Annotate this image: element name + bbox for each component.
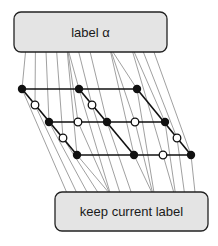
edge-line xyxy=(154,52,191,155)
edge-line xyxy=(111,52,134,155)
edge-line xyxy=(57,52,63,138)
filled-node xyxy=(161,118,169,126)
top-label-box: label α xyxy=(14,12,167,52)
edge-line xyxy=(63,138,98,192)
bottom-box-label: keep current label xyxy=(80,204,183,219)
open-node xyxy=(159,151,167,159)
filled-node xyxy=(133,85,141,93)
filled-node xyxy=(103,118,111,126)
filled-node xyxy=(45,118,53,126)
open-node xyxy=(74,118,82,126)
top-box-label: label α xyxy=(71,25,110,40)
edge-line xyxy=(191,155,195,192)
edge-line xyxy=(107,122,131,192)
open-node xyxy=(131,118,139,126)
edge-line xyxy=(77,155,108,192)
edge-line xyxy=(113,52,137,89)
edge-line xyxy=(111,52,135,122)
diagram-canvas: label α keep current label xyxy=(0,0,218,246)
edge-line xyxy=(163,155,174,192)
open-node xyxy=(59,134,67,142)
filled-node xyxy=(130,151,138,159)
open-node xyxy=(88,101,96,109)
filled-node xyxy=(73,151,81,159)
open-node xyxy=(31,101,39,109)
edge-line xyxy=(46,52,49,122)
edge-line xyxy=(49,122,87,192)
bottom-label-box: keep current label xyxy=(55,192,208,231)
filled-node xyxy=(75,85,83,93)
open-node xyxy=(173,134,181,142)
edge-line xyxy=(22,52,26,89)
top-edges xyxy=(22,52,191,155)
edge-line xyxy=(143,52,177,138)
filled-node xyxy=(18,85,26,93)
filled-node xyxy=(187,151,195,159)
edge-line xyxy=(78,122,109,192)
